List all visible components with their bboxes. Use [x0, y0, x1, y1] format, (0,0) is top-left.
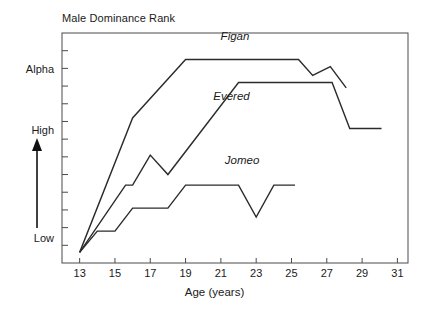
page-title: Male Dominance Rank [62, 12, 175, 24]
x-axis-title: Age (years) [0, 286, 429, 298]
x-axis-tick-label: 31 [391, 267, 403, 279]
series-line-jomeo [80, 185, 295, 252]
x-axis-tick-label: 15 [109, 267, 121, 279]
series-line-figan [80, 60, 347, 253]
x-axis-tick-label: 19 [179, 267, 191, 279]
y-axis-label-high: High [0, 124, 54, 136]
y-axis-label-low: Low [0, 232, 54, 244]
y-axis-label-alpha: Alpha [0, 63, 54, 75]
series-label-jomeo: Jomeo [224, 154, 260, 166]
series-label-figan: Figan [221, 30, 250, 42]
x-axis-tick-label: 25 [285, 267, 297, 279]
series-label-evered: Evered [213, 90, 250, 102]
x-axis-tick-label: 13 [74, 267, 86, 279]
x-axis-tick-label: 29 [356, 267, 368, 279]
series-line-evered [80, 83, 382, 253]
x-axis-tick-label: 21 [215, 267, 227, 279]
x-axis-tick-label: 27 [321, 267, 333, 279]
plot-frame [62, 33, 408, 263]
chart-figure: Male Dominance Rank Alpha High Low 13151… [0, 0, 429, 316]
plot-area: 13151719212325272931FiganEveredJomeo [0, 0, 429, 316]
up-arrow-head-icon [32, 138, 42, 151]
x-axis-tick-label: 17 [144, 267, 156, 279]
x-axis-tick-label: 23 [250, 267, 262, 279]
